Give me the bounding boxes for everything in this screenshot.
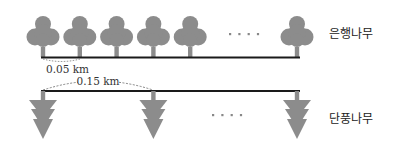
ellipsis-dot [229, 33, 231, 35]
maple-spacing-label: 0.15 km [76, 75, 119, 87]
maple-ellipsis [212, 114, 242, 116]
ginkgo-spacing-label: 0.05 km [46, 63, 89, 75]
ellipsis-dot [240, 114, 242, 116]
ginkgo-tree-icon [137, 16, 170, 57]
ginkgo-row: 0.05 km 은행나무 [27, 16, 374, 75]
ginkgo-tree-icon [281, 16, 314, 57]
ginkgo-tree-icon [27, 16, 60, 57]
tree-spacing-diagram: 0.05 km 은행나무 0.15 km 단풍나무 [0, 0, 400, 149]
ellipsis-dot [257, 33, 259, 35]
ginkgo-tree-icon [174, 16, 207, 57]
maple-tree-icon [139, 91, 167, 139]
ginkgo-label: 은행나무 [329, 26, 373, 41]
ellipsis-dot [248, 33, 250, 35]
maple-tree-icon [283, 91, 311, 139]
ginkgo-ellipsis [229, 33, 259, 35]
maple-label: 단풍나무 [329, 112, 373, 126]
ellipsis-dot [231, 114, 233, 116]
ginkgo-tree-icon [100, 16, 133, 57]
ginkgo-spacing-bracket [43, 59, 80, 62]
ginkgo-trees [27, 16, 314, 57]
ellipsis-dot [238, 33, 240, 35]
ginkgo-tree-icon [63, 16, 96, 57]
maple-trees [29, 91, 311, 139]
ellipsis-dot [221, 114, 223, 116]
maple-row: 0.15 km 단풍나무 [29, 75, 373, 140]
ellipsis-dot [212, 114, 214, 116]
maple-tree-icon [29, 91, 57, 139]
